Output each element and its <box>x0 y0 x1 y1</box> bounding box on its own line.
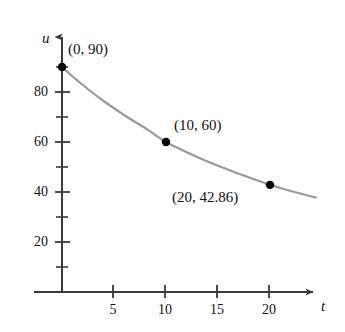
chart-figure: u t 80 60 40 20 5 10 15 20 (0, 90) (10, … <box>0 0 345 332</box>
data-point-20-4286 <box>266 181 274 189</box>
plot-area <box>0 0 345 332</box>
x-axis-label: t <box>321 299 325 314</box>
x-tick-label-5: 5 <box>98 303 128 317</box>
annotation-point-10-60: (10, 60) <box>174 118 222 133</box>
x-tick-label-20: 20 <box>254 303 284 317</box>
annotation-point-20-4286: (20, 42.86) <box>172 190 238 205</box>
data-point-10-60 <box>162 138 170 146</box>
data-points <box>58 63 274 189</box>
y-tick-label-20: 20 <box>18 235 48 249</box>
data-point-0-90 <box>58 63 66 71</box>
y-tick-label-80: 80 <box>18 85 48 99</box>
y-tick-label-40: 40 <box>18 185 48 199</box>
x-tick-label-15: 15 <box>202 303 232 317</box>
x-tick-label-10: 10 <box>150 303 180 317</box>
y-axis-label: u <box>42 31 50 46</box>
axes-group <box>34 37 313 292</box>
annotation-point-0-90: (0, 90) <box>68 42 108 57</box>
y-tick-label-60: 60 <box>18 135 48 149</box>
